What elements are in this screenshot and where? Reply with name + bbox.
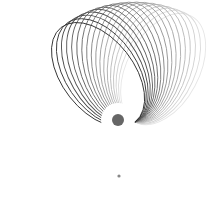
central-body bbox=[112, 114, 124, 126]
orbit-marker-dot bbox=[117, 174, 120, 177]
orbit-diagram bbox=[0, 0, 207, 222]
orbit-ellipse bbox=[93, 0, 171, 124]
